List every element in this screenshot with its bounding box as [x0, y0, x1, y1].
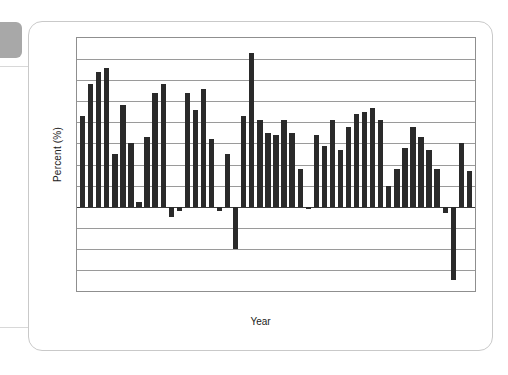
y-axis-tick-mark — [76, 122, 77, 123]
bar — [426, 150, 431, 207]
bar — [394, 169, 399, 207]
bar — [233, 207, 238, 249]
y-axis-tick-mark — [76, 80, 77, 81]
bar — [177, 207, 182, 211]
y-axis-label: Percent (%) — [52, 100, 63, 210]
bar — [330, 120, 335, 206]
gridline — [77, 122, 475, 123]
bar — [346, 127, 351, 207]
bar — [161, 84, 166, 206]
bar — [128, 143, 133, 206]
bar — [451, 207, 456, 281]
x-axis-tick-mark — [139, 291, 140, 292]
bar — [459, 143, 464, 206]
x-axis-tick-mark — [421, 291, 422, 292]
bar — [378, 120, 383, 206]
bar — [193, 110, 198, 207]
page-corner-tab — [0, 22, 22, 58]
bar — [322, 146, 327, 207]
bar — [80, 116, 85, 207]
bar-chart: Percent (%) Year 876543210−1−2−3−4196519… — [28, 21, 493, 351]
y-axis-tick-mark — [76, 228, 77, 229]
bar — [136, 202, 141, 206]
x-axis-tick-mark — [340, 291, 341, 292]
bar — [402, 148, 407, 207]
bar — [217, 207, 222, 211]
x-axis-tick-mark — [99, 291, 100, 292]
x-axis-tick-mark — [260, 291, 261, 292]
gridline — [77, 101, 475, 102]
bar — [467, 171, 472, 207]
bar — [249, 53, 254, 207]
x-axis-tick-mark — [300, 291, 301, 292]
x-axis-tick-mark — [220, 291, 221, 292]
bar — [362, 112, 367, 207]
gridline — [77, 270, 475, 271]
x-axis-tick-mark — [461, 291, 462, 292]
bar — [201, 89, 206, 207]
bar — [434, 169, 439, 207]
y-axis-tick-mark — [76, 249, 77, 250]
bar — [241, 116, 246, 207]
y-axis-tick-mark — [76, 186, 77, 187]
bar — [225, 154, 230, 207]
bar — [418, 137, 423, 207]
plot-area: 876543210−1−2−3−419651970197519801985199… — [76, 37, 476, 292]
bar — [96, 72, 101, 207]
bar — [298, 169, 303, 207]
bar — [281, 120, 286, 206]
y-axis-tick-mark — [76, 38, 77, 39]
x-axis-label: Year — [28, 316, 493, 327]
y-axis-tick-mark — [76, 291, 77, 292]
bar — [386, 186, 391, 207]
y-axis-tick-mark — [76, 165, 77, 166]
bar — [152, 93, 157, 207]
bar — [354, 114, 359, 207]
bar — [314, 135, 319, 207]
bar — [104, 68, 109, 207]
bar — [273, 135, 278, 207]
bar — [410, 127, 415, 207]
bar — [88, 84, 93, 206]
bar — [338, 150, 343, 207]
x-axis-tick-mark — [381, 291, 382, 292]
x-axis-tick-mark — [179, 291, 180, 292]
y-axis-tick-mark — [76, 143, 77, 144]
bar — [120, 105, 125, 206]
zero-line — [77, 207, 475, 208]
bar — [144, 137, 149, 207]
bar — [257, 120, 262, 206]
y-axis-tick-mark — [76, 270, 77, 271]
bar — [265, 133, 270, 207]
gridline — [77, 80, 475, 81]
gridline — [77, 228, 475, 229]
bar — [289, 133, 294, 207]
y-axis-tick-mark — [76, 59, 77, 60]
y-axis-tick-mark — [76, 207, 77, 208]
bar — [306, 207, 311, 209]
bar — [209, 139, 214, 206]
bar — [443, 207, 448, 213]
y-axis-tick-mark — [76, 101, 77, 102]
gridline — [77, 59, 475, 60]
bar — [370, 108, 375, 207]
bar — [169, 207, 174, 218]
bar — [112, 154, 117, 207]
bar — [185, 93, 190, 207]
gridline — [77, 249, 475, 250]
